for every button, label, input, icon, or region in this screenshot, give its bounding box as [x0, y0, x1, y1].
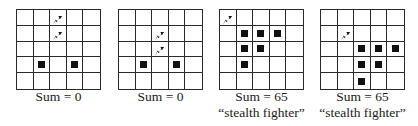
- jet-icon: [154, 43, 165, 54]
- grid-cell: [136, 73, 153, 89]
- grid-cell: [321, 42, 338, 58]
- filled-square-icon: [241, 45, 248, 52]
- grid-cell: [371, 73, 388, 89]
- panel-4: Sum = 65 “stealth fighter”: [320, 0, 418, 126]
- grid-cell: [152, 26, 169, 42]
- grid-cell: [354, 42, 371, 58]
- grid: [118, 9, 203, 90]
- grid-cell: [185, 26, 202, 42]
- grid-cell: [152, 42, 169, 58]
- grid-cell: [169, 26, 186, 42]
- grid-cell: [371, 26, 388, 42]
- grid-cell: [50, 73, 67, 89]
- panel-2: Sum = 0: [118, 0, 218, 126]
- filled-square-icon: [71, 61, 78, 68]
- grid: [320, 9, 405, 90]
- grid-cell: [237, 57, 254, 73]
- jet-icon: [222, 12, 233, 23]
- grid-cell: [119, 73, 136, 89]
- grid-cell: [83, 10, 100, 26]
- grid-cell: [152, 10, 169, 26]
- grid-cell: [34, 73, 51, 89]
- grid-cell: [50, 57, 67, 73]
- grid-cell: [286, 73, 303, 89]
- grid-cell: [67, 73, 84, 89]
- grid-cell: [371, 10, 388, 26]
- grid-cell: [185, 42, 202, 58]
- grid-cell: [338, 73, 355, 89]
- grid-cell: [67, 10, 84, 26]
- sum-caption: Sum = 0: [6, 89, 111, 104]
- jet-icon: [154, 28, 165, 39]
- grid-cell: [67, 57, 84, 73]
- grid-cell: [169, 10, 186, 26]
- grid-cell: [321, 10, 338, 26]
- grid-cell: [17, 73, 34, 89]
- grid-cell: [253, 57, 270, 73]
- grid-cell: [321, 26, 338, 42]
- grid-cell: [387, 10, 404, 26]
- grid-cell: [17, 10, 34, 26]
- grid-cell: [354, 57, 371, 73]
- grid-cell: [152, 57, 169, 73]
- grid-cell: [169, 73, 186, 89]
- grid-cell: [387, 42, 404, 58]
- grid-cell: [34, 26, 51, 42]
- grid-cell: [136, 42, 153, 58]
- grid-cell: [286, 57, 303, 73]
- grid-cell: [169, 42, 186, 58]
- grid-cell: [220, 57, 237, 73]
- grid: [16, 9, 101, 90]
- grid-cell: [220, 26, 237, 42]
- grid-cell: [237, 10, 254, 26]
- grid-cell: [83, 73, 100, 89]
- grid-cell: [119, 26, 136, 42]
- panel-3: Sum = 65 “stealth fighter”: [219, 0, 319, 126]
- jet-icon: [52, 28, 63, 39]
- filled-square-icon: [358, 45, 365, 52]
- grid-cell: [253, 42, 270, 58]
- grid-cell: [354, 26, 371, 42]
- sum-caption: Sum = 0: [108, 89, 213, 104]
- filled-square-icon: [274, 30, 281, 37]
- grid-cell: [338, 26, 355, 42]
- grid-cell: [371, 42, 388, 58]
- grid-cell: [185, 73, 202, 89]
- filled-square-icon: [392, 45, 399, 52]
- grid-cell: [286, 10, 303, 26]
- label-caption: “stealth fighter”: [209, 105, 314, 120]
- sum-caption: Sum = 65: [310, 89, 415, 104]
- grid-cell: [50, 10, 67, 26]
- sum-caption: Sum = 65: [209, 89, 314, 104]
- filled-square-icon: [375, 61, 382, 68]
- filled-square-icon: [173, 61, 180, 68]
- grid-cell: [371, 57, 388, 73]
- grid-cell: [136, 10, 153, 26]
- filled-square-icon: [140, 61, 147, 68]
- grid-cell: [286, 42, 303, 58]
- grid-cell: [17, 26, 34, 42]
- grid-cell: [220, 10, 237, 26]
- grid-cell: [270, 57, 287, 73]
- grid-cell: [354, 73, 371, 89]
- grid-cell: [50, 42, 67, 58]
- grid-cell: [17, 57, 34, 73]
- jet-icon: [340, 28, 351, 39]
- jet-icon: [52, 12, 63, 23]
- grid-cell: [338, 57, 355, 73]
- grid-cell: [237, 42, 254, 58]
- grid-cell: [237, 26, 254, 42]
- grid-cell: [119, 57, 136, 73]
- grid-cell: [34, 57, 51, 73]
- grid-cell: [34, 10, 51, 26]
- grid-cell: [387, 73, 404, 89]
- filled-square-icon: [375, 45, 382, 52]
- grid: [219, 9, 304, 90]
- grid-cell: [387, 26, 404, 42]
- grid-cell: [83, 26, 100, 42]
- grid-cell: [169, 57, 186, 73]
- grid-cell: [237, 73, 254, 89]
- filled-square-icon: [358, 78, 365, 85]
- grid-cell: [220, 42, 237, 58]
- filled-square-icon: [257, 30, 264, 37]
